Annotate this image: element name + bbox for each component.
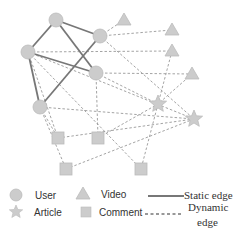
comment-node-icon: [135, 163, 147, 175]
legend-dynamic-edge-label-line2: edge: [197, 216, 218, 228]
comment-node-icon: [60, 163, 72, 175]
legend-user-label: User: [35, 190, 57, 201]
user-node-icon: [93, 29, 107, 43]
user-node-icon: [21, 45, 35, 59]
legend-article-label: Article: [34, 207, 62, 218]
video-node-icon: [117, 13, 131, 25]
dynamic-edge: [100, 30, 172, 36]
video-node-icon: [185, 67, 199, 79]
legend-article-icon: [9, 205, 22, 218]
user-node-icon: [33, 100, 47, 114]
static-edge: [28, 52, 40, 107]
dynamic-edge: [28, 51, 172, 52]
dynamic-edge: [98, 104, 158, 138]
dynamic-edge: [100, 36, 194, 119]
dynamic-edge: [28, 52, 58, 138]
legend-video-label: Video: [101, 189, 127, 200]
dynamic-edge: [96, 73, 192, 74]
nodes-layer: [21, 13, 203, 175]
user-node-icon: [89, 66, 103, 80]
legend-video-icon: [76, 187, 90, 199]
dynamic-edge: [96, 73, 98, 138]
legend-comment-label: Comment: [99, 207, 143, 218]
comment-node-icon: [92, 132, 104, 144]
heterogeneous-graph-diagram: User Video Static edge Article Comment D…: [0, 0, 242, 245]
legend-static-edge-label: Static edge: [184, 189, 233, 201]
legend: User Video Static edge Article Comment D…: [9, 187, 232, 228]
article-node-icon: [149, 95, 166, 111]
edges-layer: [28, 20, 194, 169]
article-node-icon: [185, 110, 202, 126]
dynamic-edge: [66, 119, 194, 169]
comment-node-icon: [52, 132, 64, 144]
video-node-icon: [165, 23, 179, 35]
video-node-icon: [165, 44, 179, 56]
dynamic-edge: [40, 107, 194, 119]
dynamic-edge: [158, 51, 172, 104]
legend-comment-icon: [81, 207, 91, 217]
dynamic-edge: [141, 104, 158, 169]
legend-user-icon: [10, 189, 22, 201]
dynamic-edge: [96, 73, 158, 104]
user-node-icon: [49, 13, 63, 27]
legend-dynamic-edge-label-line1: Dynamic: [188, 201, 228, 213]
